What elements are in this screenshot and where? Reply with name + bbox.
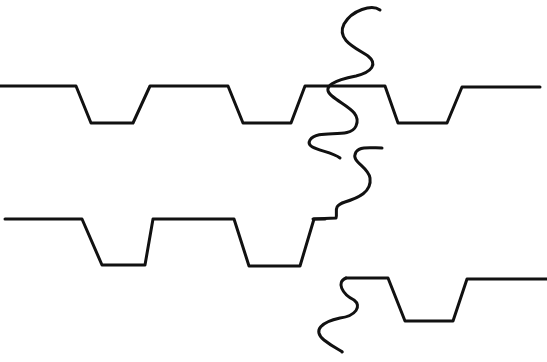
bottom-waveform [346,278,547,321]
middle-waveform [5,219,325,266]
middle-break-wave [313,148,382,219]
waveform-diagram [0,0,547,362]
top-break-wave [309,8,380,158]
top-waveform [0,86,540,123]
bottom-break-wave [319,278,358,352]
